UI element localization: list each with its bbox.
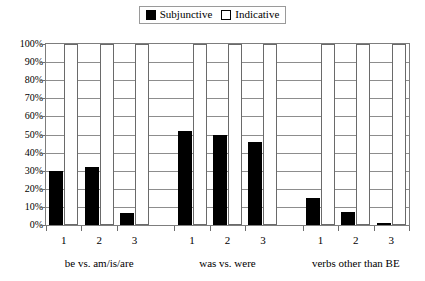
legend-item-subjunctive: Subjunctive — [146, 9, 213, 20]
x-axis-tick — [46, 226, 47, 231]
y-axis-tick — [40, 98, 45, 99]
x-axis-category-label: 2 — [216, 234, 240, 246]
x-axis-tick — [210, 226, 211, 231]
bar-indicative — [64, 44, 78, 225]
x-axis-tick — [117, 226, 118, 231]
y-axis-tick-label: 30% — [7, 166, 43, 176]
y-axis-tick — [40, 80, 45, 81]
y-axis-tick — [40, 207, 45, 208]
y-axis-tick-label: 10% — [7, 202, 43, 212]
legend-item-indicative: Indicative — [221, 9, 279, 20]
y-axis-tick — [40, 171, 45, 172]
y-axis-tick — [40, 44, 45, 45]
x-axis-group-label: verbs other than BE — [266, 257, 425, 269]
y-axis-tick-label: 90% — [7, 57, 43, 67]
bar-subjunctive — [248, 142, 262, 225]
y-axis-tick-label: 40% — [7, 148, 43, 158]
x-axis-category-label: 3 — [251, 234, 275, 246]
bar-subjunctive — [49, 171, 63, 225]
x-axis-tick — [245, 226, 246, 231]
y-axis-tick-label: 50% — [7, 130, 43, 140]
legend-container: Subjunctive Indicative — [0, 6, 425, 24]
y-axis-tick-label: 0% — [7, 220, 43, 230]
bar-subjunctive — [213, 135, 227, 226]
bar-indicative — [193, 44, 207, 225]
x-axis-tick — [374, 226, 375, 231]
x-axis-tick — [409, 226, 410, 231]
bar-indicative — [321, 44, 335, 225]
y-axis-tick — [40, 62, 45, 63]
x-axis-category-label: 3 — [123, 234, 147, 246]
x-axis-category-label: 1 — [180, 234, 204, 246]
bar-subjunctive — [377, 223, 391, 225]
bar-indicative — [392, 44, 406, 225]
chart-legend: Subjunctive Indicative — [139, 6, 287, 24]
bar-chart: 0%10%20%30%40%50%60%70%80%90%100% 123123… — [0, 34, 425, 281]
x-axis-category-label: 2 — [344, 234, 368, 246]
y-axis-tick — [40, 153, 45, 154]
y-axis-tick — [40, 189, 45, 190]
y-axis-tick-label: 70% — [7, 93, 43, 103]
filled-square-icon — [146, 10, 156, 20]
y-axis-tick-label: 100% — [7, 39, 43, 49]
x-axis-tick — [338, 226, 339, 231]
hollow-square-icon — [221, 10, 231, 20]
y-axis-tick-label: 80% — [7, 75, 43, 85]
bar-subjunctive — [120, 213, 134, 225]
x-axis-category-label: 3 — [379, 234, 403, 246]
bar-subjunctive — [178, 131, 192, 225]
y-axis-tick-label: 60% — [7, 111, 43, 121]
bar-subjunctive — [85, 167, 99, 225]
y-axis-tick — [40, 225, 45, 226]
x-axis-category-label: 2 — [87, 234, 111, 246]
legend-label-subjunctive: Subjunctive — [160, 9, 213, 20]
x-axis-tick — [81, 226, 82, 231]
legend-label-indicative: Indicative — [235, 9, 279, 20]
bar-subjunctive — [341, 212, 355, 225]
y-axis-tick — [40, 116, 45, 117]
bar-subjunctive — [306, 198, 320, 225]
bar-series-container — [46, 44, 409, 225]
x-axis-tick — [174, 226, 175, 231]
bar-indicative — [100, 44, 114, 225]
y-axis-tick — [40, 135, 45, 136]
x-axis-tick — [303, 226, 304, 231]
y-axis-tick-label: 20% — [7, 184, 43, 194]
bar-indicative — [135, 44, 149, 225]
x-axis-category-label: 1 — [52, 234, 76, 246]
bar-indicative — [356, 44, 370, 225]
bar-indicative — [228, 44, 242, 225]
x-axis-category-label: 1 — [308, 234, 332, 246]
bar-indicative — [263, 44, 277, 225]
